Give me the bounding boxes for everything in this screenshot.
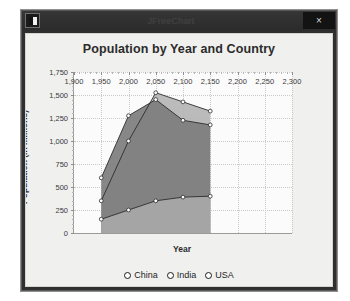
x-minor-tick [139, 72, 140, 74]
data-point-usa [208, 194, 212, 198]
y-minor-tick [72, 113, 74, 114]
chart-legend: ChinaIndiaUSA [26, 270, 332, 280]
data-point-usa [181, 195, 185, 199]
legend-item-label: India [177, 270, 197, 280]
y-minor-tick [72, 150, 74, 151]
chart-panel: Population by Year and Country Populatio… [25, 33, 333, 287]
x-tick-label: 2,150 [201, 77, 220, 86]
x-minor-tick [259, 72, 260, 74]
legend-item-india[interactable]: India [167, 270, 197, 280]
y-minor-tick [72, 123, 74, 124]
circle-marker-icon [205, 272, 212, 279]
data-point-india [154, 91, 158, 95]
data-point-india [208, 109, 212, 113]
x-tick-mark [292, 72, 293, 75]
series-layer [74, 72, 292, 233]
x-tick-label: 1,950 [92, 77, 111, 86]
x-minor-tick [188, 72, 189, 74]
x-minor-tick [118, 72, 119, 74]
x-minor-tick [194, 72, 195, 74]
close-button[interactable]: × [303, 12, 335, 29]
x-minor-tick [167, 72, 168, 74]
x-tick-mark [101, 72, 102, 75]
x-minor-tick [134, 72, 135, 74]
y-tick-mark [71, 187, 74, 188]
x-minor-tick [161, 72, 162, 74]
y-minor-tick [72, 136, 74, 137]
x-minor-tick [90, 72, 91, 74]
y-tick-label: 1,250 [25, 114, 68, 123]
y-tick-mark [71, 164, 74, 165]
y-tick-label: 750 [25, 160, 68, 169]
y-tick-label: 500 [25, 183, 68, 192]
x-minor-tick [172, 72, 173, 74]
x-minor-tick [123, 72, 124, 74]
y-minor-tick [72, 104, 74, 105]
data-point-india [127, 139, 131, 143]
data-point-india [181, 100, 185, 104]
desktop-backdrop: JFreeChart × Population by Year and Coun… [0, 0, 350, 301]
x-minor-tick [85, 72, 86, 74]
y-minor-tick [72, 90, 74, 91]
app-icon-right-block [33, 17, 37, 25]
y-minor-tick [72, 201, 74, 202]
x-tick-label: 2,100 [174, 77, 193, 86]
y-tick-mark [71, 210, 74, 211]
x-minor-tick [145, 72, 146, 74]
y-tick-label: 1,500 [25, 91, 68, 100]
y-minor-tick [72, 192, 74, 193]
chart-title: Population by Year and Country [26, 42, 332, 56]
data-point-usa [127, 208, 131, 212]
circle-marker-icon [167, 272, 174, 279]
y-minor-tick [72, 178, 74, 179]
y-minor-tick [72, 224, 74, 225]
legend-item-china[interactable]: China [124, 270, 158, 280]
application-icon [25, 13, 40, 28]
chart-window: JFreeChart × Population by Year and Coun… [21, 10, 337, 291]
data-point-china [127, 114, 131, 118]
x-minor-tick [270, 72, 271, 74]
x-tick-mark [183, 72, 184, 75]
x-minor-tick [216, 72, 217, 74]
x-minor-tick [107, 72, 108, 74]
y-minor-tick [72, 155, 74, 156]
y-tick-label: 0 [25, 229, 68, 238]
y-tick-mark [71, 118, 74, 119]
x-minor-tick [287, 72, 288, 74]
x-minor-tick [254, 72, 255, 74]
x-tick-mark [156, 72, 157, 75]
x-minor-tick [112, 72, 113, 74]
y-minor-tick [72, 159, 74, 160]
vertical-gridline [292, 72, 293, 233]
x-minor-tick [178, 72, 179, 74]
y-minor-tick [72, 196, 74, 197]
x-axis-label: Year [73, 244, 291, 254]
x-minor-tick [232, 72, 233, 74]
x-minor-tick [79, 72, 80, 74]
data-point-china [181, 118, 185, 122]
x-minor-tick [281, 72, 282, 74]
area-fills [101, 93, 210, 233]
y-tick-label: 1,750 [25, 68, 68, 77]
data-point-china [154, 98, 158, 102]
x-minor-tick [96, 72, 97, 74]
y-minor-tick [72, 100, 74, 101]
y-minor-tick [72, 228, 74, 229]
circle-marker-icon [124, 272, 131, 279]
y-tick-label: 1,000 [25, 137, 68, 146]
y-minor-tick [72, 132, 74, 133]
window-titlebar[interactable]: JFreeChart × [22, 11, 336, 30]
data-point-china [208, 123, 212, 127]
data-point-india [99, 199, 103, 203]
legend-item-usa[interactable]: USA [205, 270, 234, 280]
y-minor-tick [72, 169, 74, 170]
x-tick-label: 2,050 [146, 77, 165, 86]
x-tick-mark [74, 72, 75, 75]
y-tick-mark [71, 95, 74, 96]
plot-area: 02505007501,0001,2501,5001,750 1,9001,95… [73, 72, 292, 234]
y-tick-mark [71, 233, 74, 234]
data-point-china [99, 176, 103, 180]
x-minor-tick [227, 72, 228, 74]
y-tick-label: 250 [25, 206, 68, 215]
x-minor-tick [221, 72, 222, 74]
